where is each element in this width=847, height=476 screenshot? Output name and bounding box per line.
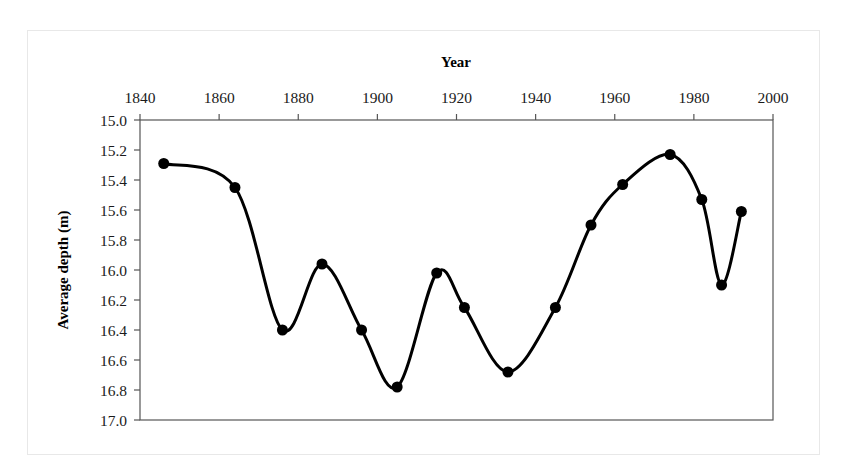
- y-axis-tick-label: 16.2: [100, 292, 127, 309]
- x-axis-tick-label: 1860: [204, 89, 235, 106]
- x-axis-tick-label: 2000: [758, 89, 789, 106]
- x-axis-tick-label: 1840: [125, 89, 156, 106]
- x-axis-tick-label: 1980: [678, 89, 709, 106]
- data-point-marker: [716, 280, 727, 291]
- x-axis-title: Year: [441, 54, 471, 70]
- data-point-marker: [431, 268, 442, 279]
- y-axis-tick-label: 15.2: [100, 142, 127, 159]
- y-axis-title: Average depth (m): [55, 211, 72, 330]
- y-axis-tick-label: 16.0: [100, 262, 127, 279]
- data-point-marker: [617, 179, 628, 190]
- x-axis-tick-label: 1960: [599, 89, 630, 106]
- y-axis-tick-label: 15.0: [100, 112, 127, 129]
- x-axis-tick-label: 1940: [520, 89, 551, 106]
- y-axis-tick-label: 16.4: [100, 322, 127, 339]
- y-axis-tick-label: 15.8: [100, 232, 127, 249]
- data-point-marker: [316, 259, 327, 270]
- data-point-marker: [459, 302, 470, 313]
- y-axis-tick-label: 17.0: [100, 412, 127, 429]
- data-point-marker: [158, 158, 169, 169]
- line-chart: Year Average depth (m) 18401860188019001…: [0, 0, 847, 476]
- y-axis-tick-label: 15.4: [100, 172, 127, 189]
- data-point-marker: [229, 182, 240, 193]
- data-point-marker: [277, 325, 288, 336]
- data-point-marker: [502, 367, 513, 378]
- x-axis-tick-label: 1900: [362, 89, 393, 106]
- plot-area-background: [140, 120, 773, 420]
- x-axis-ticks: 184018601880190019201940196019802000: [125, 89, 789, 120]
- y-axis-ticks: 15.015.215.415.615.816.016.216.416.616.8…: [100, 112, 140, 429]
- figure-container: Year Average depth (m) 18401860188019001…: [0, 0, 847, 476]
- data-point-marker: [550, 302, 561, 313]
- data-point-marker: [665, 149, 676, 160]
- data-point-marker: [392, 382, 403, 393]
- y-axis-tick-label: 15.6: [100, 202, 127, 219]
- data-point-marker: [356, 325, 367, 336]
- data-point-marker: [696, 194, 707, 205]
- x-axis-tick-label: 1880: [283, 89, 314, 106]
- data-point-marker: [736, 206, 747, 217]
- data-point-marker: [586, 220, 597, 231]
- x-axis-tick-label: 1920: [441, 89, 472, 106]
- y-axis-tick-label: 16.8: [100, 382, 127, 399]
- y-axis-tick-label: 16.6: [100, 352, 127, 369]
